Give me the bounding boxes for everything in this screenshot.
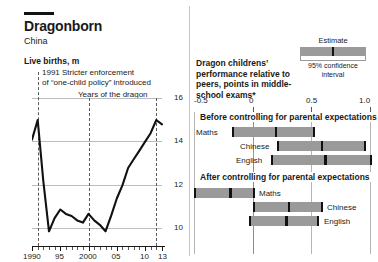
legend-estimate-label: Estimate [300,36,366,45]
legend-estimate-tick [332,47,334,56]
live-births-line [32,98,163,247]
bar-after-english [249,216,319,226]
scale-label-10: 1.0 [359,96,370,105]
line-plot-area: 16 14 12 10 1990 [32,98,162,246]
bar-before-maths [232,127,315,137]
legend-bar-swatch [300,47,366,56]
page-subtitle: China [24,36,48,46]
right-chart-title: Dragon childrens’ performance relative t… [196,58,304,100]
ci-cap-high [321,202,323,212]
estimate-tick [275,127,278,137]
bar-after-chinese [253,202,323,212]
xtick-2005 [117,247,118,251]
estimate-tick [324,155,327,165]
ytick-label-10: 10 [174,223,183,232]
estimate-tick [321,141,324,151]
ci-cap-low [194,188,196,198]
left-chart-units-label: Live births, m [24,56,79,66]
legend-ci-label-line2: interval [322,71,345,78]
bar-label-before-english: English [236,156,262,165]
ci-cap-high [253,188,255,198]
xtick-label-95: 95 [55,252,64,261]
legend-ci-bracket [300,56,366,61]
ci-cap-low [277,141,279,151]
xtick-1990 [32,247,33,251]
ci-cap-low [232,127,234,137]
estimate-tick [288,202,291,212]
xtick-2000 [89,247,90,251]
xtick-2010 [145,247,146,251]
ci-cap-low [253,202,255,212]
bar-label-after-maths: Maths [259,189,281,198]
bar-label-after-chinese: Chinese [327,203,356,212]
vrule-10 [370,112,371,254]
bar-label-before-maths: Maths [196,128,218,137]
section-header-after: After controlling for parental expectati… [198,172,372,182]
page-title: Dragonborn [24,18,102,34]
scale-label-0: 0 [249,96,253,105]
annotation-line-1: 1991 Stricter enforcement [42,68,134,77]
ci-cap-low [249,216,251,226]
live-births-line-chart: 1991 Stricter enforcement of “one-child … [22,72,182,240]
estimate-tick [229,188,232,198]
xtick-2013 [162,247,163,251]
bar-label-before-chinese: Chinese [240,142,269,151]
xtick-label-13: 13 [158,252,167,261]
ci-cap-high [317,216,319,226]
scale-label-neg05: -0.5 [194,96,208,105]
xtick-label-10: 10 [140,252,149,261]
vrule-neg05 [194,112,195,254]
estimate-tick [285,216,288,226]
annotation-one-child-policy: 1991 Stricter enforcement of “one-child … [42,68,151,88]
panel-divider [189,6,190,256]
bar-before-chinese [277,141,366,151]
bar-label-after-english: English [324,217,350,226]
section-header-before: Before controlling for parental expectat… [198,112,378,122]
ytick-label-14: 14 [174,136,183,145]
ci-cap-low [271,155,273,165]
header-rule [24,12,54,15]
ci-cap-high [370,155,372,165]
xtick-label-1990: 1990 [23,252,41,261]
ci-cap-high [313,127,315,137]
xtick-label-05: 05 [112,252,121,261]
xtick-1995 [60,247,61,251]
ytick-label-16: 16 [174,93,183,102]
chart-legend: Estimate 95% confidence interval [300,36,366,79]
legend-ci-label: 95% confidence interval [300,62,366,79]
annotation-line-2: of “one-child policy” introduced [42,78,151,87]
bar-after-maths [194,188,255,198]
right-chart-scale-axis: -0.5 0 0.5 1.0 [194,96,370,110]
scale-label-05: 0.5 [306,96,317,105]
ytick-label-12: 12 [174,180,183,189]
legend-ci-label-line1: 95% confidence [308,62,358,69]
exam-performance-bars: Before controlling for parental expectat… [194,112,370,254]
xtick-label-2000: 2000 [79,252,97,261]
bar-before-english [271,155,372,165]
ci-cap-high [364,141,366,151]
